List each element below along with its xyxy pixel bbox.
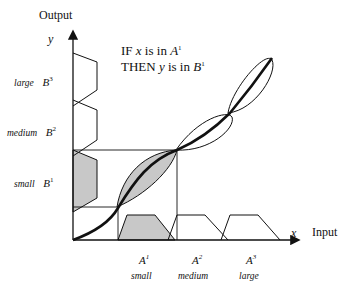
x-axis-variable: x bbox=[291, 227, 296, 239]
output-set-b1-shaded bbox=[73, 150, 97, 212]
rule-if-var: x bbox=[136, 43, 142, 58]
rule-if-sup: 1 bbox=[178, 44, 182, 52]
rule-then-set: B bbox=[193, 59, 201, 74]
output-set-b3 bbox=[73, 53, 97, 106]
set-label: A bbox=[246, 254, 253, 266]
rule-patch-shaded bbox=[117, 150, 177, 207]
rule-if-set: A bbox=[170, 43, 178, 58]
input-set-a1: A1 bbox=[139, 254, 149, 266]
output-set-label-large: large B3 bbox=[14, 76, 53, 89]
rule-if-mid: is in bbox=[145, 43, 167, 58]
rule-if-keyword: IF bbox=[121, 43, 133, 58]
output-set-label-medium: medium B2 bbox=[7, 126, 56, 139]
set-sup: 1 bbox=[50, 176, 54, 184]
input-ling-small: small bbox=[131, 272, 152, 282]
set-sup: 2 bbox=[199, 253, 203, 261]
input-set-a3: A3 bbox=[246, 254, 256, 266]
set-sup: 2 bbox=[53, 125, 57, 133]
input-set-a1-shaded bbox=[118, 215, 175, 240]
input-ling-medium: medium bbox=[178, 272, 208, 282]
x-axis-title: Input bbox=[312, 226, 337, 238]
rule-then-keyword: THEN bbox=[121, 59, 156, 74]
set-sup: 1 bbox=[146, 253, 150, 261]
ling-label: large bbox=[14, 78, 34, 88]
rule-if-line: IF x is in A1 bbox=[121, 41, 182, 58]
input-ling-large: large bbox=[239, 272, 259, 282]
y-axis-variable: y bbox=[48, 33, 53, 45]
input-set-a2: A2 bbox=[192, 254, 202, 266]
ling-label: medium bbox=[7, 128, 37, 138]
output-set-label-small: small B1 bbox=[14, 177, 54, 190]
y-axis-title: Output bbox=[39, 9, 72, 21]
set-label: A bbox=[139, 254, 146, 266]
set-label: B bbox=[46, 126, 53, 138]
set-sup: 3 bbox=[49, 75, 53, 83]
rule-then-mid: is in bbox=[168, 59, 190, 74]
set-label: A bbox=[192, 254, 199, 266]
output-set-b2 bbox=[73, 100, 97, 156]
input-set-a3 bbox=[221, 215, 280, 240]
rule-then-sup: 1 bbox=[201, 60, 205, 68]
function-curve bbox=[73, 58, 272, 240]
set-sup: 3 bbox=[253, 253, 257, 261]
rule-then-var: y bbox=[159, 59, 165, 74]
rule-then-line: THEN y is in B1 bbox=[121, 57, 205, 74]
ling-label: small bbox=[14, 179, 35, 189]
